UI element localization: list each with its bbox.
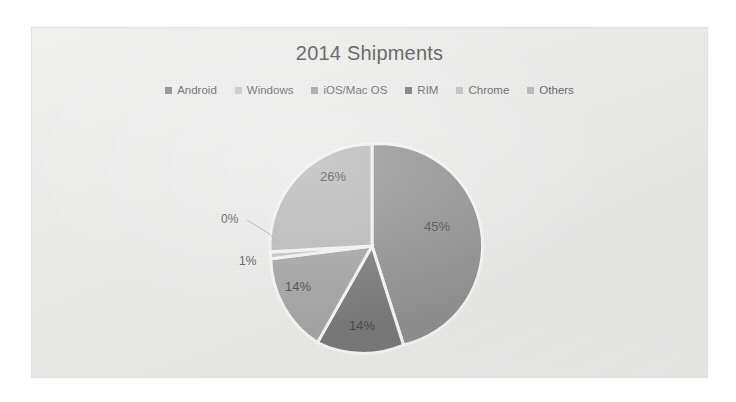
chart-panel: 2014 Shipments Android Windows iOS/Mac O…	[31, 27, 708, 378]
legend-item-ios-mac-os[interactable]: iOS/Mac OS	[311, 84, 387, 96]
data-label-ios-mac-os: 14%	[285, 279, 311, 294]
legend-item-windows[interactable]: Windows	[235, 84, 294, 96]
screenshot-root: 2014 Shipments Android Windows iOS/Mac O…	[0, 0, 736, 402]
legend-item-chrome[interactable]: Chrome	[456, 84, 509, 96]
data-label-windows: 0%	[221, 212, 239, 226]
legend-label: Android	[177, 84, 217, 96]
legend-item-android[interactable]: Android	[165, 84, 217, 96]
chart-title: 2014 Shipments	[32, 42, 707, 65]
chart-legend: Android Windows iOS/Mac OS RIM Chrome Ot…	[32, 84, 707, 96]
legend-label: Others	[539, 84, 574, 96]
legend-swatch-icon	[235, 87, 242, 94]
legend-label: Windows	[247, 84, 294, 96]
legend-item-others[interactable]: Others	[527, 84, 574, 96]
legend-swatch-icon	[165, 87, 172, 94]
pie-chart[interactable]: 45% 26% 14% 14% 0% 1%	[32, 28, 707, 377]
legend-swatch-icon	[527, 87, 534, 94]
legend-swatch-icon	[456, 87, 463, 94]
data-label-others: 26%	[320, 169, 346, 184]
data-label-rim: 14%	[349, 318, 375, 333]
legend-label: RIM	[417, 84, 438, 96]
pie-slices	[270, 144, 483, 354]
legend-item-rim[interactable]: RIM	[405, 84, 438, 96]
plot-area: 45% 26% 14% 14% 0% 1%	[32, 28, 707, 377]
data-label-android: 45%	[424, 219, 450, 234]
legend-swatch-icon	[405, 87, 412, 94]
legend-swatch-icon	[311, 87, 318, 94]
pie-slice-others[interactable]	[270, 144, 372, 252]
data-label-chrome: 1%	[239, 254, 257, 268]
legend-label: Chrome	[468, 84, 509, 96]
legend-label: iOS/Mac OS	[323, 84, 387, 96]
